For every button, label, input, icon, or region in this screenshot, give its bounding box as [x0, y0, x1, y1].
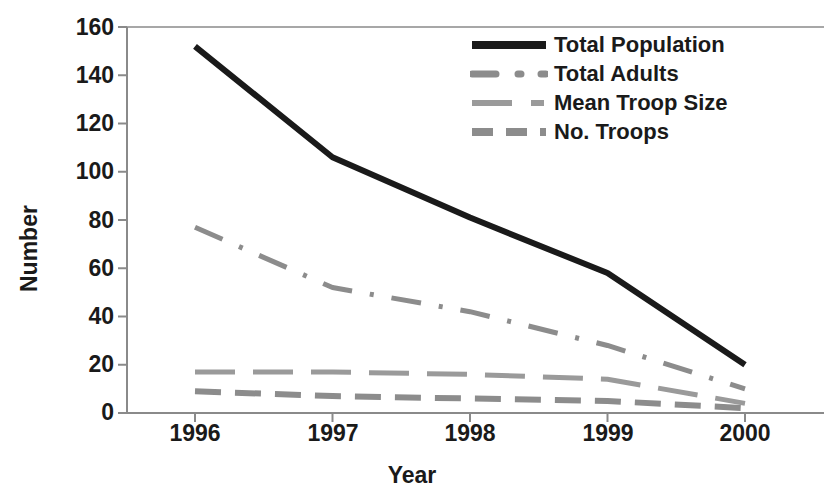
legend-item-total-adults: Total Adults	[470, 59, 810, 88]
chart-legend: Total Population Total Adults Mean Troop…	[470, 30, 810, 146]
series-line-no-troops	[195, 391, 745, 408]
legend-swatch-no-troops	[470, 125, 548, 139]
legend-label-total-population: Total Population	[554, 32, 725, 58]
legend-swatch-total-adults	[470, 67, 548, 81]
chart-figure: Number 160 140 120 100 80 60 40 20 0 199…	[0, 0, 824, 492]
y-axis-ticks	[118, 27, 127, 413]
legend-item-total-population: Total Population	[470, 30, 810, 59]
legend-swatch-mean-troop-size	[470, 96, 548, 110]
legend-label-no-troops: No. Troops	[554, 119, 669, 145]
legend-item-mean-troop-size: Mean Troop Size	[470, 88, 810, 117]
legend-swatch-total-population	[470, 38, 548, 52]
legend-item-no-troops: No. Troops	[470, 117, 810, 146]
legend-label-mean-troop-size: Mean Troop Size	[554, 90, 728, 116]
series-line-mean-troop-size	[195, 372, 745, 403]
legend-label-total-adults: Total Adults	[554, 61, 679, 87]
x-axis-ticks	[195, 413, 745, 422]
